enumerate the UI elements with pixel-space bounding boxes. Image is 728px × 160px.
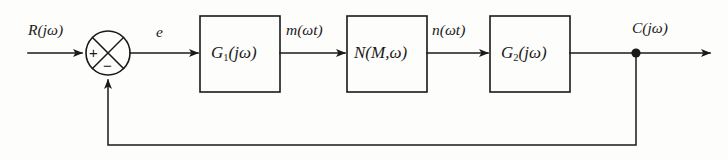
block-label-n: N(M,ω) [354, 44, 407, 63]
block-g2-arg: (jω) [519, 43, 547, 62]
block-n-main: N [354, 43, 365, 62]
block-n-arg: (M,ω) [365, 43, 407, 62]
block-diagram-canvas: R(jω) e m(ωt) n(ωt) C(jω) + − G1(jω) N(M… [0, 0, 728, 160]
block-g1-main: G [211, 43, 223, 62]
block-label-g2: G2(jω) [501, 44, 547, 63]
block-label-g1: G1(jω) [211, 44, 257, 63]
diagram-svg [0, 0, 728, 160]
summing-junction-minus-sign: − [103, 58, 112, 73]
block-g2-main: G [501, 43, 513, 62]
signal-label-error: e [156, 24, 163, 40]
wire-feedback-path [108, 55, 636, 145]
block-g1-arg: (jω) [229, 43, 257, 62]
signal-label-input: R(jω) [28, 22, 63, 38]
signal-label-output: C(jω) [632, 20, 668, 36]
takeoff-node-dot [631, 48, 640, 57]
summing-junction-plus-sign: + [89, 45, 98, 60]
signal-label-after-g1: m(ωt) [286, 22, 323, 38]
signal-label-after-n: n(ωt) [432, 22, 465, 38]
